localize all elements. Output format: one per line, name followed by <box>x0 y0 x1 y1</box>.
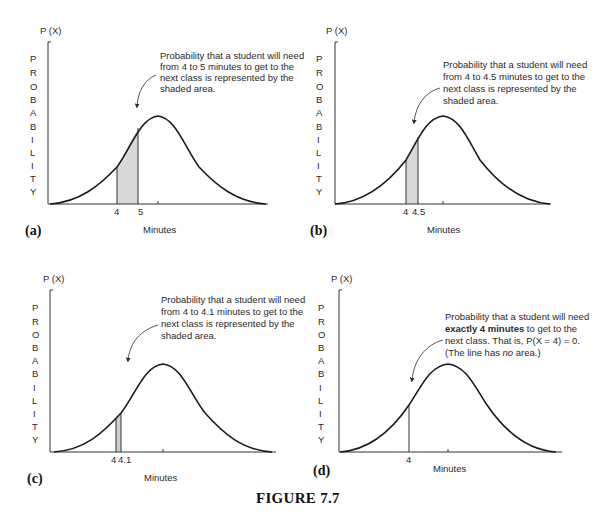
annotation-arrow-icon <box>128 325 158 360</box>
ylabel-letter: O <box>32 329 39 340</box>
y-axis-vertical-label: P R O B A B I L I T Y <box>30 53 37 197</box>
ylabel-letter: O <box>30 81 37 92</box>
annotation-rest: to get to the <box>524 323 577 334</box>
x-axis-label: Minutes <box>433 463 467 474</box>
normal-curve <box>50 116 266 204</box>
annotation-line: Probability that a student will need <box>161 294 305 305</box>
annotation-arrow-icon <box>412 340 443 380</box>
ylabel-letter: B <box>32 342 38 353</box>
panel-c: P (X) P R O B A B I L I T Y 4 4.1 Minute… <box>27 273 305 487</box>
annotation-line: shaded area. <box>443 95 498 106</box>
ylabel-letter: A <box>316 107 323 118</box>
annotation-c: Probability that a student will need fro… <box>161 294 305 341</box>
ylabel-letter: P <box>318 302 324 313</box>
ylabel-letter: Y <box>318 434 325 445</box>
x-axis-label: Minutes <box>144 472 178 483</box>
y-axis-top-label: P (X) <box>326 25 347 36</box>
ylabel-letter: L <box>318 395 323 406</box>
annotation-arrow-icon <box>414 88 440 122</box>
annotation-a: Probability that a student will need fro… <box>160 50 304 94</box>
annotation-arrow-icon <box>137 75 156 106</box>
ylabel-letter: I <box>319 382 322 393</box>
normal-curve <box>340 364 556 452</box>
ylabel-letter: B <box>318 342 324 353</box>
panel-b: P (X) P R O B A B I L I T Y 4 4.5 Minute… <box>310 25 587 239</box>
annotation-post: area.) <box>513 347 540 358</box>
ylabel-letter: I <box>33 382 36 393</box>
ylabel-letter: I <box>317 134 320 145</box>
x-tick-label: 4 <box>406 454 411 465</box>
ylabel-letter: T <box>316 173 322 184</box>
ylabel-letter: B <box>316 94 322 105</box>
x-axis-label: Minutes <box>427 224 461 235</box>
x-tick-label: 4 <box>403 206 408 217</box>
x-axis-label: Minutes <box>143 224 177 235</box>
annotation-line: Probability that a student will need <box>160 50 304 61</box>
ylabel-letter: L <box>316 147 321 158</box>
ylabel-letter: R <box>316 67 323 78</box>
x-tick-label: 4.5 <box>412 206 425 217</box>
normal-curve <box>335 116 550 204</box>
shaded-area <box>406 137 418 204</box>
ylabel-letter: R <box>30 67 37 78</box>
annotation-d: Probability that a student will need exa… <box>445 311 589 358</box>
ylabel-letter: B <box>30 94 36 105</box>
annotation-line: next class is represented by the <box>443 83 577 94</box>
annotation-line: Probability that a student will need <box>443 59 587 70</box>
ylabel-letter: B <box>30 121 36 132</box>
panel-label-c: (c) <box>27 471 43 487</box>
ylabel-letter: Y <box>316 186 323 197</box>
ylabel-letter: A <box>318 355 325 366</box>
x-tick-label: 4 <box>114 206 119 217</box>
ylabel-letter: I <box>317 160 320 171</box>
normal-curve <box>54 364 272 452</box>
x-tick-label: 4.1 <box>118 454 131 465</box>
panel-a: P (X) P R O B A B I L I T Y 4 5 Minutes … <box>25 25 304 239</box>
y-axis-top-label: P (X) <box>331 273 352 284</box>
ylabel-letter: T <box>318 421 324 432</box>
ylabel-letter: A <box>30 107 37 118</box>
annotation-italic: no <box>503 347 514 358</box>
ylabel-letter: P <box>32 302 38 313</box>
annotation-bold: exactly 4 minutes <box>445 323 524 334</box>
annotation-line: (The line has no area.) <box>445 347 541 358</box>
annotation-line: from 4 to 4.1 minutes to get to the <box>161 306 303 317</box>
annotation-line: next class is represented by the <box>161 318 295 329</box>
ylabel-letter: O <box>316 81 323 92</box>
annotation-line: next class. That is, P(X = 4) = 0. <box>445 335 580 346</box>
ylabel-letter: I <box>33 408 36 419</box>
figure-caption: FIGURE 7.7 <box>256 490 340 506</box>
ylabel-letter: B <box>318 368 324 379</box>
y-axis-vertical-label: P R O B A B I L I T Y <box>316 53 323 197</box>
annotation-line: from 4 to 5 minutes to get to the <box>160 61 294 72</box>
ylabel-letter: T <box>32 421 38 432</box>
ylabel-letter: P <box>30 53 36 64</box>
panel-d: P (X) P R O B A B I L I T Y 4 Minutes (d… <box>313 273 589 479</box>
annotation-b: Probability that a student will need fro… <box>443 59 587 106</box>
annotation-line: Probability that a student will need <box>445 311 589 322</box>
ylabel-letter: I <box>31 134 34 145</box>
ylabel-letter: O <box>318 329 325 340</box>
annotation-line: exactly 4 minutes to get to the <box>445 323 577 334</box>
ylabel-letter: P <box>316 53 322 64</box>
ylabel-letter: R <box>318 316 325 327</box>
panel-label-b: (b) <box>310 223 327 239</box>
y-axis-vertical-label: P R O B A B I L I T Y <box>318 302 325 445</box>
ylabel-letter: Y <box>32 434 39 445</box>
panel-label-d: (d) <box>313 463 330 479</box>
x-tick-label: 5 <box>138 206 143 217</box>
ylabel-letter: L <box>30 147 35 158</box>
shaded-area <box>117 128 138 204</box>
x-tick-label: 4 <box>111 454 116 465</box>
ylabel-letter: B <box>316 121 322 132</box>
annotation-pre: (The line has <box>445 347 503 358</box>
figure-7-7: P (X) P R O B A B I L I T Y 4 5 Minutes … <box>0 0 609 521</box>
ylabel-letter: R <box>32 316 39 327</box>
ylabel-letter: L <box>32 395 37 406</box>
y-axis-vertical-label: P R O B A B I L I T Y <box>32 302 39 445</box>
panel-label-a: (a) <box>25 223 42 239</box>
annotation-line: from 4 to 4.5 minutes to get to the <box>443 71 585 82</box>
ylabel-letter: T <box>30 173 36 184</box>
ylabel-letter: I <box>319 408 322 419</box>
annotation-line: next class is represented by the <box>160 72 294 83</box>
